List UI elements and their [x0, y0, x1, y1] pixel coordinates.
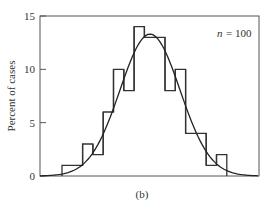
figure-caption: (b) [136, 188, 149, 201]
y-tick-label: 0 [30, 170, 36, 182]
y-tick-label: 10 [24, 63, 36, 75]
y-axis-label: Percent of cases [5, 61, 17, 132]
annotation-n: n [217, 27, 223, 39]
histogram-bars [62, 27, 227, 176]
histogram-outline [62, 27, 227, 176]
plot-frame [40, 16, 259, 176]
y-tick-label: 5 [30, 117, 36, 129]
y-axis-ticks: 051015 [24, 10, 46, 182]
chart-canvas: 051015 Percent of cases n = 100 (b) [0, 0, 276, 209]
annotation-value: = 100 [226, 27, 252, 39]
y-tick-label: 15 [24, 10, 36, 22]
